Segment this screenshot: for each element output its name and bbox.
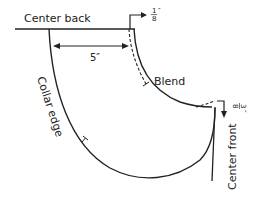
svg-text:3: 3 — [239, 104, 247, 108]
svg-text:″: ″ — [239, 110, 247, 113]
svg-text:8: 8 — [152, 15, 156, 23]
three-eighth-arrow-head-icon — [221, 111, 227, 118]
collar-pattern-diagram: Center back 1 8 ″ 5″ Collar edge Blend 3… — [0, 0, 254, 210]
blend-label: Blend — [154, 75, 185, 88]
adjusted-neckline-dashed — [129, 29, 146, 84]
eighth-arrow-head-icon — [141, 12, 147, 18]
svg-text:″: ″ — [158, 7, 161, 15]
center-front-label: Center front — [226, 123, 239, 190]
width-arrow-right-icon — [122, 43, 129, 49]
neckline-curve — [134, 29, 212, 107]
width-measure-label: 5″ — [90, 52, 100, 63]
blend-notch-icon — [143, 82, 149, 86]
collar-edge-notch-icon — [82, 136, 88, 142]
svg-text:1: 1 — [152, 7, 156, 15]
center-back-label: Center back — [24, 12, 91, 25]
svg-text:8: 8 — [231, 104, 239, 108]
collar-edge-label: Collar edge — [34, 75, 66, 139]
three-eighth-inch-fraction: 3 8 ″ — [231, 103, 247, 113]
center-front-line — [212, 107, 215, 181]
eighth-inch-fraction: 1 8 ″ — [151, 7, 161, 23]
width-arrow-left-icon — [53, 43, 60, 49]
